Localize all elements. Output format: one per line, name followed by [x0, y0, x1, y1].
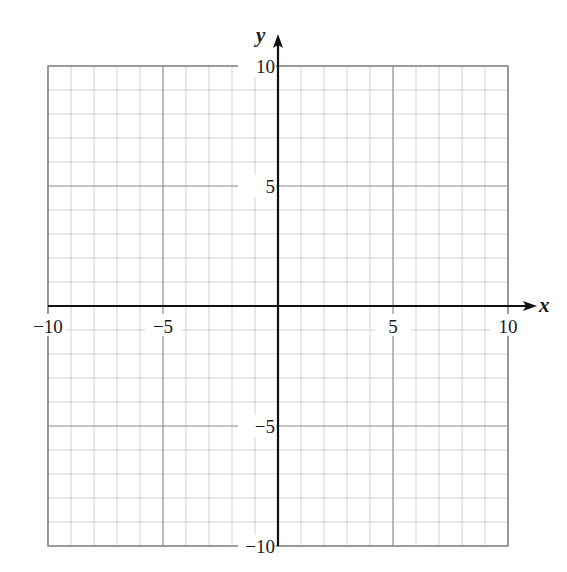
- y-tick-label: 5: [266, 176, 276, 197]
- coordinate-plane: −10−5510−10−5510 x y: [0, 0, 567, 572]
- y-tick-label: −10: [245, 536, 275, 557]
- x-tick-label: 5: [388, 316, 398, 337]
- y-axis-label: y: [253, 23, 266, 47]
- x-tick-label: 10: [499, 316, 518, 337]
- x-tick-label: −10: [33, 316, 63, 337]
- x-tick-label: −5: [153, 316, 173, 337]
- x-axis-label: x: [538, 293, 550, 317]
- axes: [48, 34, 537, 546]
- y-tick-label: −5: [255, 416, 275, 437]
- y-tick-label: 10: [256, 56, 275, 77]
